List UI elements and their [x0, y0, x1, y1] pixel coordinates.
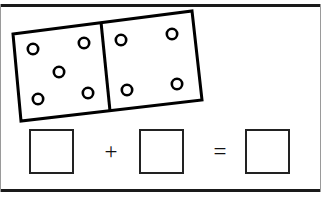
pip: [167, 29, 177, 39]
pip: [28, 44, 38, 54]
pip: [33, 94, 43, 104]
equals-operator: =: [206, 129, 234, 174]
addition-equation-row: + =: [0, 126, 321, 184]
answer-box-sum[interactable]: [245, 129, 290, 174]
domino-tile: [0, 0, 321, 126]
pip: [122, 85, 132, 95]
pip: [79, 38, 89, 48]
pip: [83, 88, 93, 98]
pip: [116, 35, 126, 45]
pip: [54, 67, 64, 77]
plus-operator: +: [97, 129, 125, 174]
answer-box-addend-1[interactable]: [29, 129, 74, 174]
worksheet-page: + =: [0, 0, 321, 198]
pip: [172, 79, 182, 89]
answer-box-addend-2[interactable]: [139, 129, 184, 174]
page-rule-bottom: [0, 189, 321, 192]
